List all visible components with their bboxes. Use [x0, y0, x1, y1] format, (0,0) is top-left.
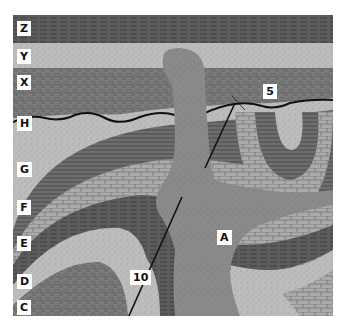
geologic-cross-section: Z Y X H G F E D C A 5 10	[0, 0, 347, 329]
label-Y: Y	[17, 49, 31, 64]
label-C: C	[17, 300, 31, 315]
label-E: E	[17, 236, 31, 251]
layer-Z	[13, 15, 333, 43]
label-G: G	[17, 162, 32, 177]
label-fault-10: 10	[130, 270, 151, 285]
label-H: H	[17, 116, 32, 131]
label-Z: Z	[17, 21, 31, 36]
label-F: F	[17, 200, 31, 215]
label-fault-5: 5	[263, 84, 277, 99]
label-D: D	[17, 274, 32, 289]
label-A: A	[217, 230, 232, 245]
label-X: X	[17, 75, 31, 90]
cross-section-svg	[0, 0, 347, 329]
